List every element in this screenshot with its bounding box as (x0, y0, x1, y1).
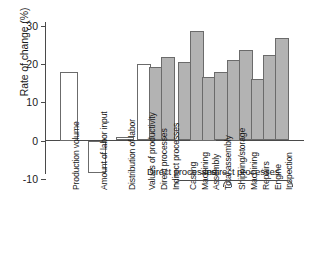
y-tick-0 (41, 141, 46, 142)
y-tick-label-0: 0 (8, 136, 38, 147)
bar-chart: Rate of change (%) 3020100-10 Production… (0, 0, 313, 276)
y-tick-label-10: 10 (8, 97, 38, 108)
category-label-production-volume: Production volume (72, 121, 81, 190)
y-tick-30 (41, 26, 46, 27)
y-axis-line (45, 22, 46, 174)
category-label-amount-of-labor-input: Amount of labor input (100, 111, 109, 190)
y-tick-label-30: 30 (8, 21, 38, 32)
bar-total-assembly (214, 72, 228, 141)
y-tick-10 (41, 102, 46, 103)
group-label-indirect: Indirect processes (204, 166, 279, 177)
y-tick-label-20: 20 (8, 59, 38, 70)
y-tick-label--10: -10 (8, 174, 38, 185)
bar-inspection (275, 38, 289, 140)
group-bracket-indirect (223, 180, 293, 187)
category-label-distribution-of-labor: Distribution of labor (128, 119, 137, 190)
category-label-values-of-productivity: Values of productivity (148, 112, 157, 190)
category-label-direct-processes: Direct processes (160, 128, 169, 190)
y-tick--10 (41, 179, 46, 180)
y-tick-20 (41, 64, 46, 65)
